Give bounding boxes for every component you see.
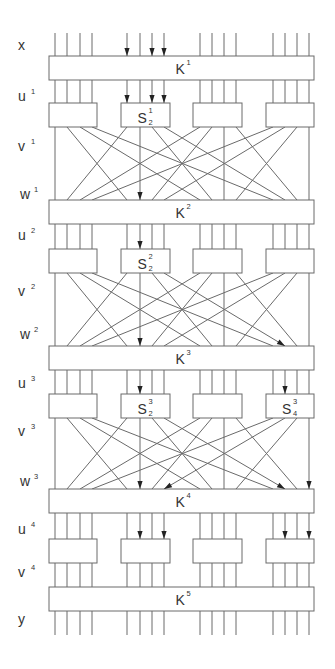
- key-round-superscript: 3: [187, 348, 191, 357]
- down-arrow-icon: [149, 48, 154, 56]
- sbox-round-superscript: 2: [149, 252, 153, 261]
- sbox-r4-1: [49, 539, 97, 563]
- down-arrow-icon: [306, 531, 311, 539]
- row-label-superscript: 2: [34, 325, 38, 334]
- down-arrow-icon: [137, 386, 142, 394]
- sbox-round-superscript: 3: [149, 397, 153, 406]
- row-label-superscript: 1: [31, 137, 35, 146]
- boxes-layer: [49, 56, 314, 611]
- down-arrow-icon: [149, 95, 154, 103]
- row-label-v1: v: [18, 138, 25, 154]
- sbox-label: S: [138, 110, 147, 126]
- sbox-r1-1: [49, 103, 97, 127]
- arrow-icon: [137, 192, 142, 200]
- sbox-r2-3: [193, 249, 242, 273]
- key-label: K: [176, 205, 186, 221]
- row-label-superscript: 4: [31, 520, 35, 529]
- sbox-round-superscript: 1: [149, 106, 153, 115]
- key-round-superscript: 2: [187, 202, 191, 211]
- key-label: K: [176, 494, 186, 510]
- down-arrow-icon: [161, 531, 166, 539]
- sbox-index-subscript: 2: [149, 264, 153, 273]
- key-label: K: [176, 61, 186, 77]
- sbox-index-subscript: 2: [149, 409, 153, 418]
- sbox-label: S: [138, 256, 147, 272]
- arrow-icon: [164, 483, 172, 489]
- down-arrow-icon: [161, 95, 166, 103]
- down-arrow-icon: [137, 531, 142, 539]
- down-arrow-icon: [137, 241, 142, 249]
- sbox-index-subscript: 2: [149, 118, 153, 127]
- row-label-v3: v: [18, 423, 25, 439]
- sbox-index-subscript: 4: [293, 409, 297, 418]
- sbox-r4-3: [193, 539, 242, 563]
- sbox-r1-3: [193, 103, 242, 127]
- row-label-superscript: 3: [34, 472, 38, 481]
- arrow-icon: [277, 483, 285, 489]
- row-label-w1: w: [19, 186, 31, 202]
- key-round-superscript: 4: [187, 491, 191, 500]
- row-label-superscript: 3: [31, 374, 35, 383]
- row-label-u1: u: [18, 88, 26, 104]
- row-label-superscript: 2: [31, 226, 35, 235]
- row-label-superscript: 3: [31, 422, 35, 431]
- row-label-w3: w: [19, 473, 31, 489]
- row-label-y: y: [18, 611, 25, 627]
- spn-linear-approximation-diagram: S12S22S32S34K1K2K3K4K5xu1v1w1u2v2w2u3v3w…: [0, 0, 335, 669]
- sbox-r3-3: [193, 394, 242, 418]
- row-label-superscript: 2: [31, 282, 35, 291]
- down-arrow-icon: [161, 48, 166, 56]
- row-label-u2: u: [18, 227, 26, 243]
- sbox-r1-4: [266, 103, 314, 127]
- sbox-r4-4: [266, 539, 314, 563]
- row-label-u3: u: [18, 375, 26, 391]
- sbox-label: S: [282, 401, 291, 417]
- row-label-superscript: 1: [34, 185, 38, 194]
- sbox-round-superscript: 3: [293, 397, 297, 406]
- down-arrow-icon: [124, 95, 129, 103]
- down-arrow-icon: [282, 386, 287, 394]
- key-round-superscript: 5: [187, 589, 191, 598]
- row-label-w2: w: [19, 326, 31, 342]
- down-arrow-icon: [124, 48, 129, 56]
- key-label: K: [176, 592, 186, 608]
- sbox-r4-2: [121, 539, 170, 563]
- sbox-r2-1: [49, 249, 97, 273]
- arrow-icon: [137, 481, 142, 489]
- row-label-v2: v: [18, 283, 25, 299]
- row-label-v4: v: [18, 564, 25, 580]
- sbox-label: S: [138, 401, 147, 417]
- row-label-superscript: 4: [31, 563, 35, 572]
- row-label-x: x: [18, 37, 25, 53]
- arrow-icon: [277, 340, 285, 346]
- row-label-superscript: 1: [31, 87, 35, 96]
- sbox-r2-4: [266, 249, 314, 273]
- arrow-icon: [137, 338, 142, 346]
- arrow-icon: [306, 481, 311, 489]
- down-arrow-icon: [282, 531, 287, 539]
- key-label: K: [176, 351, 186, 367]
- row-label-u4: u: [18, 521, 26, 537]
- sbox-r3-1: [49, 394, 97, 418]
- key-round-superscript: 1: [187, 58, 191, 67]
